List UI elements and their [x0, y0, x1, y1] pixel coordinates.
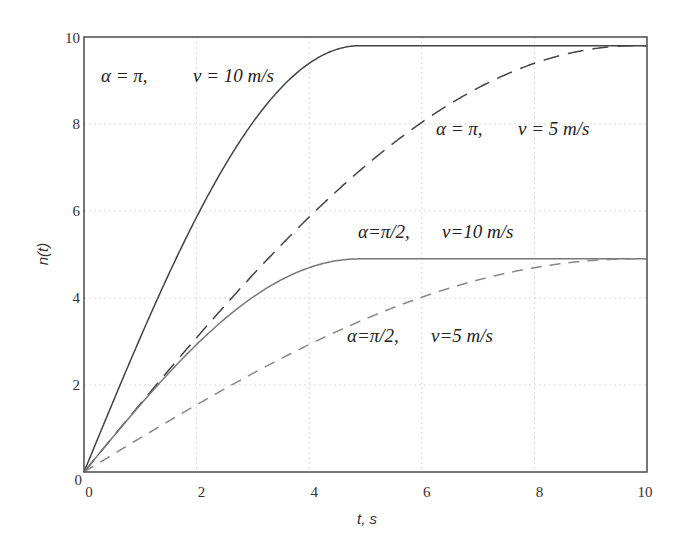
- y-tick-label: 8: [73, 116, 81, 132]
- x-tick-label: 6: [423, 484, 431, 500]
- annotation-alpha: α = π,: [436, 118, 483, 139]
- annotation-velocity: v = 10 m/s: [193, 65, 274, 86]
- x-tick-label: 2: [198, 484, 206, 500]
- x-axis-ticks: 0246810: [85, 484, 652, 500]
- curve-annotations: α = π,v = 10 m/sα = π,v = 5 m/sα=π/2,v=1…: [101, 65, 589, 346]
- annotation-velocity: v=10 m/s: [442, 221, 513, 242]
- plot-frame: [84, 37, 647, 472]
- line-chart: 0246810 0246810 n(t) t, s α = π,v = 10 m…: [0, 0, 685, 557]
- y-tick-label: 2: [73, 377, 81, 393]
- annotation-velocity: v=5 m/s: [431, 325, 493, 346]
- curve-series-4: [84, 259, 647, 472]
- x-tick-label: 10: [638, 484, 653, 500]
- x-tick-label: 8: [536, 484, 544, 500]
- x-tick-label: 4: [310, 484, 318, 500]
- y-axis-label: n(t): [34, 243, 51, 266]
- x-tick-label: 0: [85, 484, 93, 500]
- annotation-alpha: α=π/2,: [358, 221, 410, 242]
- y-tick-label: 4: [73, 290, 81, 306]
- annotation-alpha: α=π/2,: [347, 325, 399, 346]
- curve-series-3: [84, 259, 647, 472]
- grid-lines: [84, 37, 647, 472]
- y-tick-label: 10: [65, 30, 80, 46]
- y-axis-ticks: 0246810: [65, 30, 82, 488]
- curves: [84, 46, 647, 472]
- annotation-velocity: v = 5 m/s: [518, 118, 589, 139]
- y-tick-label: 0: [75, 472, 83, 488]
- y-tick-label: 6: [73, 203, 81, 219]
- annotation-alpha: α = π,: [101, 65, 148, 86]
- x-axis-label: t, s: [357, 510, 378, 527]
